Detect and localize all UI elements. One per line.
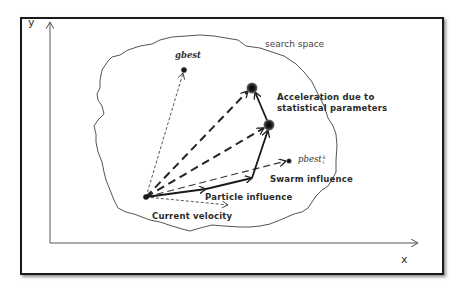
pbest-label-text: pbest bbox=[298, 154, 322, 164]
pbest-label: pbestki bbox=[298, 154, 326, 165]
particle-influence-label: Particle influence bbox=[205, 192, 292, 203]
swarm-influence-label: Swarm influence bbox=[270, 174, 353, 185]
particle-influence-arrow bbox=[146, 189, 206, 197]
x-axis-label: x bbox=[401, 253, 408, 266]
search-space-label: search space bbox=[265, 39, 324, 49]
y-axis-label: y bbox=[28, 16, 35, 29]
acceleration-annotation-line1: Acceleration due to bbox=[277, 92, 387, 103]
acceleration-annotation: Acceleration due to statistical paramete… bbox=[277, 92, 387, 114]
pbest-subscript: i bbox=[323, 160, 326, 165]
gbest-label: gbest bbox=[175, 50, 201, 60]
gbest-node bbox=[181, 67, 187, 73]
pso-diagram bbox=[0, 0, 462, 295]
accelerated-position-middle-node bbox=[264, 120, 275, 131]
axes bbox=[50, 22, 418, 243]
particle-node bbox=[143, 194, 149, 200]
acceleration-annotation-line2: statistical parameters bbox=[277, 103, 387, 114]
swarm-influence-arrow bbox=[252, 130, 268, 178]
accelerated-position-upper-node bbox=[247, 83, 258, 94]
pbest-node bbox=[286, 158, 291, 163]
current-velocity-label: Current velocity bbox=[152, 211, 232, 222]
acceleration-arrow-upper bbox=[146, 91, 248, 197]
